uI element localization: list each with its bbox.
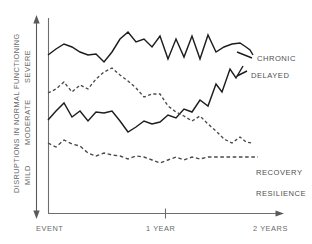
series-label-delayed: DELAYED <box>251 71 289 80</box>
x-label-one-year: 1 YEAR <box>146 224 175 233</box>
series-label-recovery: RECOVERY <box>256 168 302 177</box>
y-axis-title: DISRUPTIONS IN NORMAL FUNCTIONING <box>12 33 21 193</box>
trajectories-chart: CHRONIC DELAYED RECOVERY RESILIENCE EVEN… <box>0 0 312 244</box>
y-label-moderate: MODERATE <box>23 99 32 145</box>
x-axis <box>48 209 284 219</box>
y-label-severe: SEVERE <box>23 50 32 83</box>
x-label-event: EVENT <box>36 224 63 233</box>
series-label-chronic: CHRONIC <box>257 54 296 63</box>
series-chronic <box>48 32 253 62</box>
x-label-two-years: 2 YEARS <box>253 224 288 233</box>
series-recovery <box>48 68 252 143</box>
y-direction-arrow <box>33 15 39 219</box>
series-label-resilience: RESILIENCE <box>256 189 306 198</box>
y-label-mild: MILD <box>23 165 32 185</box>
series-resilience <box>48 140 258 163</box>
chronic-label-leader <box>237 52 252 58</box>
series-delayed <box>48 66 243 132</box>
